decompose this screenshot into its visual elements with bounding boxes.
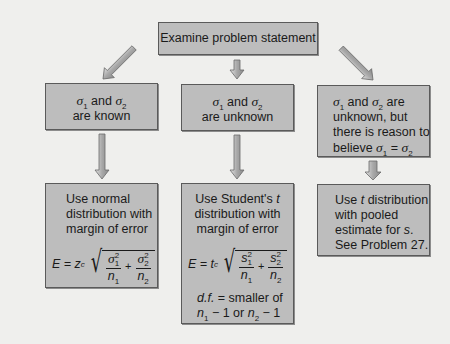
result-line: estimate for s. (335, 223, 429, 238)
arrow-down-right-icon (336, 43, 378, 85)
arrow-down-icon (95, 134, 109, 179)
result-line: Use normal (66, 192, 157, 207)
result-line: distribution with (66, 207, 157, 222)
condition-line: σ1 and σ2 (46, 93, 157, 109)
condition-line: unknown, but (333, 110, 429, 125)
square-root: √ s21n1 + s22n2 (220, 247, 287, 282)
result-normal-box: Use normal distribution with margin of e… (45, 183, 158, 288)
condition-known-box: σ1 and σ2 are known (45, 83, 158, 130)
square-root: √ σ21n1 + σ22n2 (87, 247, 155, 283)
arrow-down-icon (230, 60, 244, 79)
result-line: margin of error (182, 222, 293, 237)
margin-of-error-formula: E = tc √ s21n1 + s22n2 (182, 247, 293, 282)
result-student-t-box: Use Student's t distribution with margin… (181, 183, 294, 324)
arrow-down-left-icon (98, 43, 139, 84)
result-line: Use t distribution (335, 193, 429, 208)
margin-of-error-formula: E = zc √ σ21n1 + σ22n2 (52, 247, 157, 283)
examine-problem-box: Examine problem statement (158, 22, 318, 55)
condition-line: believe σ1 = σ2 (333, 140, 429, 156)
arrow-down-icon (230, 135, 244, 179)
result-line: See Problem 27. (335, 238, 429, 253)
examine-problem-label: Examine problem statement (160, 31, 316, 46)
result-line: Use Student's t (182, 192, 293, 207)
condition-line: are known (46, 109, 157, 124)
condition-line: are unknown (182, 110, 293, 125)
result-line: with pooled (335, 208, 429, 223)
result-line: margin of error (66, 222, 157, 237)
condition-unknown-box: σ1 and σ2 are unknown (181, 84, 294, 131)
result-pooled-t-box: Use t distribution with pooled estimate … (317, 184, 430, 256)
result-line: distribution with (182, 207, 293, 222)
condition-line: there is reason to (333, 125, 429, 140)
degrees-of-freedom-note: d.f. = smaller of n1 − 1 or n2 − 1 (182, 291, 293, 321)
condition-line: σ1 and σ2 are (333, 94, 429, 110)
condition-unknown-equal-box: σ1 and σ2 are unknown, but there is reas… (317, 85, 430, 157)
condition-line: σ1 and σ2 (182, 94, 293, 110)
arrow-down-icon (365, 161, 381, 180)
